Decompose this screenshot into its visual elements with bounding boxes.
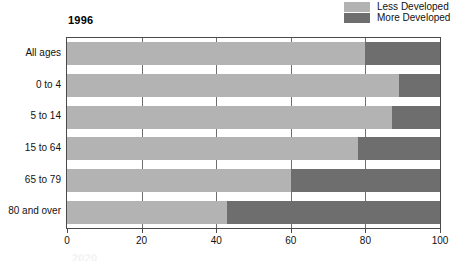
- y-axis-label: 80 and over: [0, 205, 61, 216]
- legend-label-less-developed: Less Developed: [377, 2, 449, 12]
- bar-segment-less-developed: [67, 106, 392, 129]
- gridline: [142, 38, 143, 228]
- x-axis: 020406080100: [66, 229, 441, 251]
- x-axis-tick-label: 60: [285, 235, 296, 246]
- legend-item-less-developed: Less Developed: [344, 2, 450, 12]
- x-axis-tick: [67, 229, 68, 233]
- bar-row: [67, 137, 440, 160]
- bar-row: [67, 74, 440, 97]
- y-axis-label: 15 to 64: [0, 142, 61, 153]
- legend-swatch-more-developed-icon: [344, 13, 370, 23]
- plot-inner: [67, 38, 440, 228]
- x-axis-tick: [142, 229, 143, 233]
- x-axis-tick: [291, 229, 292, 233]
- gridline: [365, 38, 366, 228]
- bar-row: [67, 169, 440, 192]
- legend-label-more-developed: More Developed: [377, 13, 450, 23]
- bar-segment-more-developed: [227, 201, 440, 224]
- y-axis-label: 0 to 4: [0, 79, 61, 90]
- gridline: [291, 38, 292, 228]
- bar-segment-less-developed: [67, 201, 227, 224]
- plot-area: [66, 37, 441, 229]
- next-chart-title-partial: 2020: [72, 252, 97, 261]
- chart-legend: Less Developed More Developed: [344, 2, 450, 23]
- x-axis-tick: [365, 229, 366, 233]
- bar-segment-less-developed: [67, 42, 365, 65]
- x-axis-tick: [440, 229, 441, 233]
- x-axis-tick-label: 20: [136, 235, 147, 246]
- legend-swatch-less-developed-icon: [344, 2, 370, 12]
- x-axis-tick-label: 80: [360, 235, 371, 246]
- bar-segment-more-developed: [291, 169, 440, 192]
- y-axis-label: 5 to 14: [0, 110, 61, 121]
- legend-item-more-developed: More Developed: [344, 13, 450, 23]
- bar-row: [67, 42, 440, 65]
- y-axis-label: All ages: [0, 47, 61, 58]
- bar-segment-more-developed: [392, 106, 440, 129]
- bar-row: [67, 201, 440, 224]
- x-axis-tick-label: 40: [211, 235, 222, 246]
- bar-row: [67, 106, 440, 129]
- bar-segment-less-developed: [67, 169, 291, 192]
- bar-segment-less-developed: [67, 137, 358, 160]
- bar-segment-more-developed: [365, 42, 440, 65]
- bar-segment-less-developed: [67, 74, 399, 97]
- x-axis-tick: [216, 229, 217, 233]
- gridline: [216, 38, 217, 228]
- chart-title: 1996: [68, 14, 93, 26]
- stacked-bar-chart: Less Developed More Developed 1996 All a…: [0, 0, 455, 261]
- bar-segment-more-developed: [399, 74, 440, 97]
- x-axis-tick-label: 0: [64, 235, 70, 246]
- x-axis-tick-label: 100: [432, 235, 449, 246]
- y-axis-label: 65 to 79: [0, 174, 61, 185]
- bar-segment-more-developed: [358, 137, 440, 160]
